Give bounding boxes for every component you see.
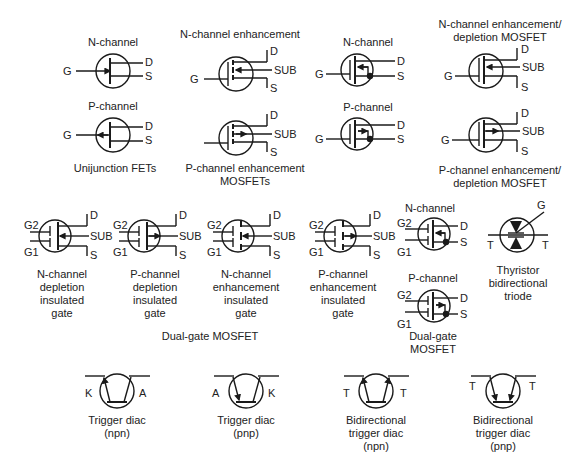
pin-right: T [400, 387, 407, 399]
pin-s: S [397, 133, 404, 145]
caption-line: N-channel [203, 268, 289, 281]
pin-d: D [460, 220, 468, 232]
pin-s: S [273, 249, 280, 261]
n-channel-enh-dep-label-1: N-channel enhancement/ [430, 18, 570, 31]
pin-g: G [537, 199, 546, 211]
p-channel-enhancement-caption-1: P-channel enhancement [180, 162, 310, 175]
pin-s: S [521, 145, 528, 157]
caption-line: depletion [115, 281, 195, 294]
pin-d: D [521, 107, 529, 119]
pin-left: T [469, 380, 476, 392]
pin-d: D [373, 209, 381, 221]
pin-sub: SUB [90, 230, 113, 242]
pin-s: S [460, 308, 467, 320]
pin-d: D [145, 56, 153, 68]
pin-t2: T [542, 239, 549, 251]
pin-s: S [373, 249, 380, 261]
thyristor-triode-symbol: G T T [487, 199, 549, 252]
pin-d: D [145, 120, 153, 132]
n-channel-enh-dep-label-2: depletion MOSFET [430, 31, 570, 44]
pin-sub: SUB [274, 64, 297, 76]
pin-s: S [90, 249, 97, 261]
p-channel-enh-dep-label-1: P-channel enhancement/ [430, 164, 570, 177]
pin-s: S [145, 134, 152, 146]
p-channel-jfet-symbol: G D S [63, 118, 153, 152]
dual-gate-caption-2: MOSFET [398, 343, 468, 356]
caption-line: gate [115, 307, 195, 320]
pin-s: S [397, 70, 404, 82]
pin-s: S [270, 146, 277, 158]
pin-g2: G2 [397, 289, 412, 301]
bidirectional-diac-pnp-caption: Bidirectional trigger diac (pnp) [463, 414, 543, 453]
p-channel-depletion-insulated-gate-caption: P-channel depletion insulated gate [115, 268, 195, 320]
caption-line: Bidirectional [336, 414, 416, 427]
caption-line: gate [22, 307, 102, 320]
caption-line: N-channel [22, 268, 102, 281]
pin-right: A [139, 387, 147, 399]
caption-line: Trigger diac [206, 414, 286, 427]
bidirectional-trigger-diac-npn-symbol: T T [343, 374, 409, 408]
pin-s: S [270, 82, 277, 94]
thyristor-caption: Thyristor bidirectional triode [480, 264, 556, 303]
pin-g1: G1 [397, 318, 412, 330]
p-channel-enhancement-mosfet-symbol: D SUB S [204, 109, 297, 158]
pin-d: D [90, 209, 98, 221]
dual-gate-n-channel-label: N-channel [395, 202, 465, 215]
caption-line: bidirectional [480, 277, 556, 290]
caption-line: trigger diac [336, 427, 416, 440]
pin-g1: G1 [113, 246, 128, 258]
unijunction-caption: Unijunction FETs [70, 162, 160, 175]
pin-left: A [212, 387, 220, 399]
bidirectional-trigger-diac-pnp-symbol: T T [469, 374, 536, 408]
caption-line: insulated [300, 294, 386, 307]
pin-g2: G2 [397, 217, 412, 229]
trigger-diac-pnp-caption: Trigger diac (pnp) [206, 414, 286, 440]
pin-s: S [460, 236, 467, 248]
n-channel-enhancement-label: N-channel enhancement [175, 28, 305, 41]
trigger-diac-pnp-symbol: A K [212, 374, 279, 408]
pin-left: K [85, 387, 93, 399]
pin-d: D [270, 45, 278, 57]
pin-d: D [270, 109, 278, 121]
pin-sub: SUB [522, 125, 545, 137]
pin-right: K [268, 387, 276, 399]
p-channel-enhancement-caption-2: MOSFETs [180, 175, 310, 188]
n-channel-mosfet-symbol: G D S [315, 54, 405, 86]
n-channel-enhancement-insulated-gate-symbol: G2 G1 D SUB S [207, 209, 296, 261]
trigger-diac-npn-symbol: K A [85, 374, 150, 408]
caption-line: (pnp) [463, 440, 543, 453]
caption-line: P-channel [115, 268, 195, 281]
pin-g: G [63, 129, 72, 141]
caption-line: (npn) [336, 440, 416, 453]
pin-g2: G2 [113, 219, 128, 231]
pin-g2: G2 [309, 219, 324, 231]
n-channel-depletion-insulated-gate-caption: N-channel depletion insulated gate [22, 268, 102, 320]
pin-s: S [145, 70, 152, 82]
p-channel-depletion-insulated-gate-symbol: G2 G1 D SUB S [113, 209, 202, 261]
p-channel-mosfet-label: P-channel [335, 101, 401, 114]
n-channel-mosfet-label: N-channel [335, 36, 401, 49]
pin-g: G [315, 133, 324, 145]
caption-line: triode [480, 290, 556, 303]
pin-d: D [179, 209, 187, 221]
caption-line: trigger diac [463, 427, 543, 440]
caption-line: enhancement [203, 281, 289, 294]
bidirectional-diac-npn-caption: Bidirectional trigger diac (npn) [336, 414, 416, 453]
pin-d: D [521, 43, 529, 55]
dual-gate-p-channel-label: P-channel [398, 272, 468, 285]
pin-s: S [179, 249, 186, 261]
p-channel-mosfet-symbol: G D S [315, 118, 405, 150]
caption-line: enhancement [300, 281, 386, 294]
n-channel-jfet-label: N-channel [80, 36, 146, 49]
caption-line: (npn) [77, 427, 157, 440]
pin-sub: SUB [373, 230, 396, 242]
dual-gate-mosfet-group-caption: Dual-gate MOSFET [140, 330, 280, 343]
caption-line: gate [300, 307, 386, 320]
n-channel-jfet-symbol: G D S [63, 54, 153, 88]
pin-sub: SUB [522, 61, 545, 73]
pin-sub: SUB [273, 230, 296, 242]
n-channel-enhancement-insulated-gate-caption: N-channel enhancement insulated gate [203, 268, 289, 320]
p-channel-enhancement-insulated-gate-caption: P-channel enhancement insulated gate [300, 268, 386, 320]
pin-g: G [63, 65, 72, 77]
caption-line: P-channel [300, 268, 386, 281]
